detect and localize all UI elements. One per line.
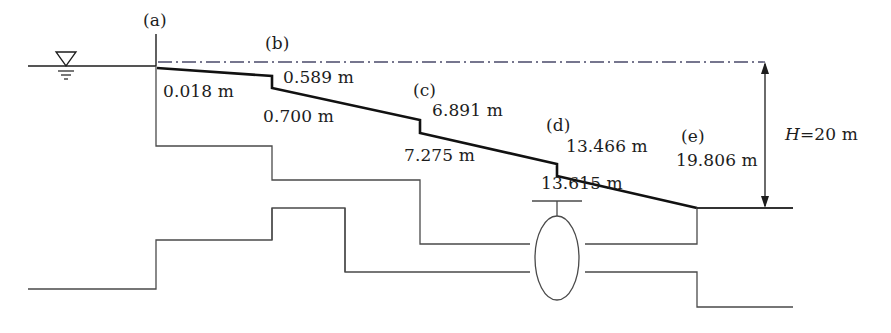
- total-head-label: H=20 m: [785, 126, 858, 143]
- gate-valve-icon: [532, 201, 582, 300]
- head-loss-label-c-upper: 6.891 m: [432, 102, 503, 119]
- total-head-symbol: H: [785, 124, 800, 144]
- water-surface-group: [28, 52, 156, 79]
- dimension-arrow-top: [761, 62, 769, 74]
- node-label-e: (e): [681, 128, 705, 145]
- pipe-outline: [28, 66, 793, 307]
- pipe-lower-wall: [28, 208, 793, 307]
- node-label-b: (b): [265, 35, 289, 52]
- hgl-figure: (a) 0.018 m (b) 0.589 m 0.700 m (c) 6.89…: [0, 0, 891, 333]
- head-loss-label-b-upper: 0.589 m: [283, 69, 354, 86]
- node-label-a: (a): [143, 12, 167, 29]
- total-head-dimension: [761, 62, 769, 208]
- head-loss-label-b-lower: 0.700 m: [263, 108, 334, 125]
- head-loss-label-d-upper: 13.466 m: [566, 138, 648, 155]
- dimension-arrow-bottom: [761, 196, 769, 208]
- total-head-equals: =: [800, 124, 814, 144]
- head-loss-label-a: 0.018 m: [163, 83, 234, 100]
- head-loss-label-e: 19.806 m: [676, 152, 758, 169]
- water-surface-triangle-icon: [56, 52, 76, 66]
- node-label-d: (d): [546, 117, 570, 134]
- node-label-c: (c): [413, 82, 436, 99]
- head-loss-label-d-lower: 13.615 m: [541, 175, 623, 192]
- total-head-value: 20 m: [814, 124, 858, 144]
- head-loss-label-c-lower: 7.275 m: [404, 147, 475, 164]
- valve-body: [535, 216, 579, 300]
